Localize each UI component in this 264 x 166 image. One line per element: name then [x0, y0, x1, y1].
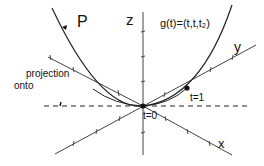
point-origin — [140, 103, 145, 108]
dashed-line-tick — [60, 102, 61, 106]
diagram-canvas: P z g(t)=(t,t,t₂) y x projection onto t=… — [0, 0, 264, 166]
z-axis-label: z — [126, 11, 134, 28]
point-t1 — [184, 85, 189, 90]
curve-label-p: P — [77, 13, 88, 30]
x-axis-label: x — [218, 136, 225, 151]
formula-label: g(t)=(t,t,t₂) — [160, 17, 210, 29]
projection-line — [48, 57, 143, 106]
onto-label: onto — [14, 80, 34, 91]
x-axis-ticks — [165, 116, 210, 146]
projection-label: projection — [26, 68, 69, 79]
y-axis — [55, 45, 256, 154]
t0-label: t=0 — [143, 110, 158, 121]
t1-label: t=1 — [190, 92, 205, 103]
y-axis-label: y — [234, 39, 241, 55]
